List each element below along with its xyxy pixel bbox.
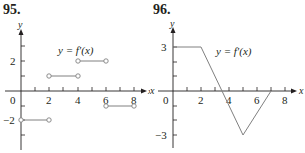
x-tick-label-0: 0 [10, 94, 16, 106]
x-tick-label-8: 8 [282, 94, 288, 106]
y-tick-label-3: 3 [161, 41, 167, 53]
x-axis-arrow-icon [291, 89, 297, 94]
x-tick-label-2: 2 [198, 94, 204, 106]
y-axis-label: y [17, 19, 23, 30]
function-label: y = f′(x) [215, 45, 252, 58]
y-tick-label-2: 2 [10, 55, 16, 67]
x-axis-arrow-icon [141, 89, 147, 94]
y-axis-label: y [169, 18, 175, 29]
y-tick-label-neg3: −3 [155, 129, 167, 141]
function-label: y = f′(x) [57, 44, 94, 57]
step-segments [21, 61, 134, 120]
chart-95: y x 0 2 4 6 8 2 −2 y = f′(x) [0, 0, 150, 153]
x-axis-label: x [298, 85, 304, 96]
x-tick-label-6: 6 [254, 94, 260, 106]
x-tick-label-0: 0 [163, 94, 169, 106]
x-tick-label-4: 4 [226, 94, 232, 106]
x-ticks [35, 87, 134, 91]
chart-panel-95: 95. y x 0 2 4 [0, 0, 150, 153]
chart-96: y x x 0 2 4 6 8 3 −3 y = f′(x) [150, 0, 305, 153]
open-endpoint-icons [19, 59, 136, 122]
x-axis-label-left: x [150, 85, 155, 96]
y-tick-label-neg2: −2 [3, 114, 15, 126]
x-ticks [187, 87, 285, 91]
x-tick-label-4: 4 [75, 94, 81, 106]
chart-panel-96: 96. y x x 0 2 [150, 0, 305, 153]
x-tick-label-2: 2 [46, 94, 52, 106]
